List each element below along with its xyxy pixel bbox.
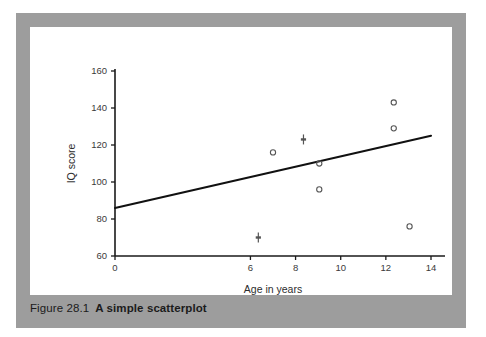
data-point: [407, 224, 412, 229]
data-point: [256, 233, 261, 243]
figure-page: 6080100120140160068101214Age in yearsIQ …: [0, 0, 486, 337]
data-point: [301, 134, 306, 144]
y-tick-label: 80: [96, 213, 107, 224]
data-point: [391, 126, 396, 131]
scatterplot-chart: 6080100120140160068101214Age in yearsIQ …: [30, 27, 452, 295]
caption-number: Figure 28.1: [30, 302, 89, 314]
y-tick-label: 160: [91, 65, 107, 76]
x-tick-label: 8: [293, 262, 298, 273]
trend-line: [115, 136, 431, 208]
data-point: [391, 100, 396, 105]
y-tick-label: 100: [91, 176, 107, 187]
caption-title: A simple scatterplot: [95, 302, 207, 314]
figure-caption: Figure 28.1A simple scatterplot: [30, 302, 460, 324]
y-axis-title: IQ score: [65, 144, 77, 184]
x-tick-label: 14: [426, 262, 437, 273]
figure-panel: 6080100120140160068101214Age in yearsIQ …: [16, 13, 466, 328]
x-tick-label: 0: [112, 262, 117, 273]
x-tick-label: 6: [248, 262, 253, 273]
x-tick-label: 10: [335, 262, 346, 273]
data-point: [270, 150, 275, 155]
x-tick-label: 12: [381, 262, 392, 273]
x-axis-title: Age in years: [244, 283, 302, 295]
data-point: [317, 187, 322, 192]
plot-card: 6080100120140160068101214Age in yearsIQ …: [30, 27, 452, 295]
y-tick-label: 120: [91, 139, 107, 150]
y-tick-label: 60: [96, 250, 107, 261]
y-tick-label: 140: [91, 102, 107, 113]
